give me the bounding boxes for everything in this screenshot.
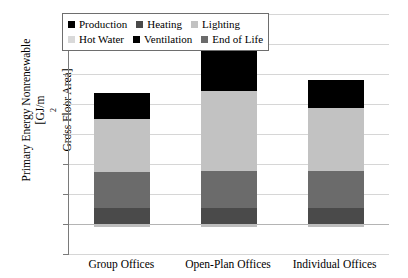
bar-segment <box>94 208 150 224</box>
bar-segment <box>94 172 150 208</box>
legend-row: Hot WaterVentilationEnd of Life <box>68 32 263 47</box>
legend-label: Lighting <box>202 19 240 30</box>
y-axis-tick <box>63 104 69 105</box>
chart-legend: ProductionHeatingLightingHot WaterVentil… <box>62 13 269 51</box>
y-axis-tick <box>63 164 69 165</box>
legend-swatch-icon <box>68 36 75 43</box>
y-axis-tick <box>63 194 69 195</box>
legend-item[interactable]: Heating <box>136 19 182 30</box>
bar-segment <box>94 119 150 172</box>
stacked-bar-chart: Primary Energy Nonrenewable [GJ/m2 Gross… <box>0 0 408 278</box>
legend-item[interactable]: Production <box>68 19 127 30</box>
legend-swatch-icon <box>133 36 140 43</box>
legend-label: End of Life <box>212 34 263 45</box>
bar-stack <box>308 14 364 254</box>
legend-label: Heating <box>147 19 182 30</box>
legend-swatch-icon <box>191 21 198 28</box>
y-axis-tick <box>63 134 69 135</box>
legend-label: Hot Water <box>79 34 124 45</box>
x-axis-label: Individual Offices <box>270 258 400 271</box>
y-axis-title: Primary Energy Nonrenewable [GJ/m2 Gross… <box>20 0 48 228</box>
bar-segment <box>201 208 257 224</box>
y-axis-title-units-pre: [GJ/m <box>34 0 48 228</box>
bar-segment <box>201 50 257 91</box>
grid-line <box>69 254 389 255</box>
bar-segment <box>201 224 257 227</box>
legend-label: Ventilation <box>144 34 192 45</box>
legend-item[interactable]: Hot Water <box>68 34 124 45</box>
legend-row: ProductionHeatingLighting <box>68 17 263 32</box>
y-axis-tick <box>63 74 69 75</box>
bar-segment <box>308 224 364 227</box>
bar-segment <box>201 91 257 170</box>
bar-segment <box>308 171 364 209</box>
legend-label: Production <box>79 19 127 30</box>
legend-item[interactable]: End of Life <box>201 34 263 45</box>
y-axis-title-superscript: 2 <box>47 0 61 228</box>
bar-segment <box>308 108 364 171</box>
bar-segment <box>94 224 150 227</box>
bar-segment <box>201 171 257 208</box>
bar-segment <box>308 208 364 224</box>
legend-swatch-icon <box>201 36 208 43</box>
y-axis-title-line1: Primary Energy Nonrenewable <box>20 0 34 228</box>
y-axis-tick <box>63 224 69 225</box>
legend-swatch-icon <box>136 21 143 28</box>
y-axis-tick <box>63 254 69 255</box>
bar-segment <box>94 93 150 119</box>
legend-item[interactable]: Lighting <box>191 19 240 30</box>
bar-segment <box>308 80 364 108</box>
legend-item[interactable]: Ventilation <box>133 34 192 45</box>
legend-swatch-icon <box>68 21 75 28</box>
